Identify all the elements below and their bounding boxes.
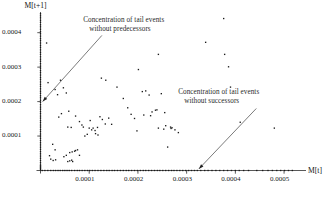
data-point [89,127,90,128]
data-point [71,151,72,152]
data-point [81,124,82,125]
data-point [292,170,293,171]
data-point [40,88,41,89]
data-point [47,82,48,83]
data-point [40,153,41,154]
data-point [134,118,135,119]
data-point [161,93,162,94]
data-point [55,170,56,171]
data-point [40,117,41,118]
successors-annotation-arrow-line [199,108,256,168]
y-tick-label-3: 0.0003 [2,63,21,71]
x-tick-label-5: 0.0005 [270,175,289,183]
data-point [173,170,174,171]
data-point [240,122,241,123]
data-point [69,160,70,161]
data-point [40,47,41,48]
data-point [72,161,73,162]
data-point [44,170,45,171]
successors-annotation: Concentration of tail events without suc… [178,88,259,105]
data-point [40,54,41,55]
data-point [99,116,100,117]
data-point [63,156,64,157]
data-point [74,170,75,171]
data-point [40,45,41,46]
data-point [40,124,41,125]
data-point [131,170,132,171]
data-point [140,170,141,171]
data-point [77,170,78,171]
data-point [40,24,41,25]
data-point [200,170,201,171]
data-point [219,170,220,171]
data-point [163,128,164,129]
data-point [57,170,58,171]
data-point [228,66,229,67]
y-tick-label-1: 0.0001 [2,131,21,139]
data-point [40,93,41,94]
data-point [256,170,257,171]
data-point [75,115,76,116]
data-point [40,158,41,159]
data-point [75,150,76,151]
data-point [71,170,72,171]
data-point [40,142,41,143]
data-point [105,80,106,81]
data-point [83,126,84,127]
successors-annotation-line1: Concentration of tail events [178,88,259,97]
data-point [40,61,41,62]
data-point [53,170,54,171]
data-point [204,170,205,171]
data-point [40,26,41,27]
data-point [40,49,41,50]
data-point [158,54,159,55]
data-point [40,97,41,98]
data-point [148,94,149,95]
data-point [40,52,41,53]
predecessors-annotation: Concentration of tail events without pre… [83,16,164,33]
data-point [100,170,101,171]
data-point [79,121,80,122]
data-point [71,159,72,160]
data-point [40,81,41,82]
data-point [40,31,41,32]
data-point [40,149,41,150]
data-point [40,56,41,57]
data-point [179,170,180,171]
data-point [64,170,65,171]
data-point [87,170,88,171]
data-point [57,94,58,95]
data-point [105,123,106,124]
data-point [120,170,121,171]
data-point [168,170,169,171]
data-point [207,170,208,171]
data-point [40,133,41,134]
data-point [134,170,135,171]
data-point [92,170,93,171]
data-point [276,170,277,171]
data-point [69,152,70,153]
data-point [170,126,171,127]
data-point [54,149,55,150]
data-point [40,91,41,92]
data-point [94,170,95,171]
data-point [40,17,41,18]
data-point [171,127,172,128]
data-point [138,69,139,70]
data-point [50,170,51,171]
data-point [114,170,115,171]
x-tick-label-1: 0.0001 [75,175,94,183]
data-point [42,170,43,171]
data-point [52,144,53,145]
data-point [145,170,146,171]
data-point [155,110,156,111]
data-point [91,129,92,130]
data-point [127,107,128,108]
data-point [40,22,41,23]
data-point [231,170,232,171]
data-point [176,170,177,171]
data-point [101,77,102,78]
data-point [126,170,127,171]
x-tick-label-4: 0.0004 [221,175,240,183]
data-point [288,170,289,171]
